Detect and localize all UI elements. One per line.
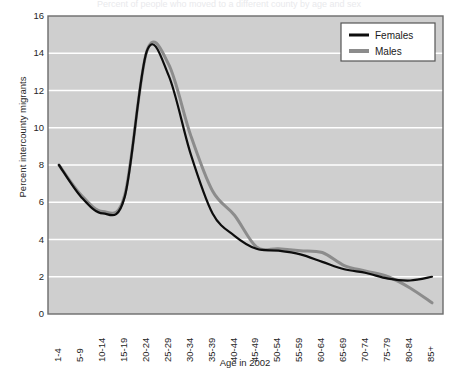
x-tick-label: 5-9 [75, 348, 85, 362]
legend-label-females: Females [375, 30, 413, 41]
y-tick-label: 2 [14, 272, 44, 282]
y-tick-label: 12 [14, 86, 44, 96]
x-tick-label: 1-4 [53, 348, 63, 362]
x-tick-label: 80-84 [404, 338, 414, 362]
y-axis-tick-labels: 0246810121416 [10, 0, 44, 320]
y-tick-label: 6 [14, 197, 44, 207]
y-tick-label: 4 [14, 235, 44, 245]
x-axis-tick-labels: 1-45-910-1415-1920-2425-2930-3435-3940-4… [48, 318, 444, 362]
legend-label-males: Males [375, 46, 402, 57]
y-tick-label: 8 [14, 160, 44, 170]
y-tick-label: 14 [14, 48, 44, 58]
legend: FemalesMales [341, 23, 435, 61]
chart-container: Percent of people who moved to a differe… [0, 0, 458, 378]
y-tick-label: 16 [14, 11, 44, 21]
x-tick-label: 10-14 [97, 338, 107, 362]
x-tick-label: 75-79 [382, 338, 392, 362]
y-tick-label: 0 [14, 309, 44, 319]
x-axis-title: Age in 2002 [150, 357, 340, 368]
chart-title-cropped: Percent of people who moved to a differe… [0, 0, 458, 9]
x-tick-label: 70-74 [360, 338, 370, 362]
y-tick-label: 10 [14, 123, 44, 133]
x-tick-label: 85+ [426, 346, 436, 362]
x-tick-label: 15-19 [119, 338, 129, 362]
